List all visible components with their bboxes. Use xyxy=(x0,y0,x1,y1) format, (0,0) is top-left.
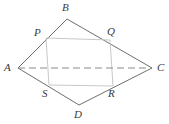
vertex-label-Q: Q xyxy=(107,26,115,37)
vertex-label-P: P xyxy=(34,27,41,38)
vertex-label-R: R xyxy=(108,88,115,99)
vertex-label-D: D xyxy=(74,109,82,120)
vertex-label-B: B xyxy=(62,2,69,13)
figure-canvas xyxy=(0,0,169,124)
geometry-figure: A B C D P Q R S xyxy=(0,0,169,124)
vertex-label-A: A xyxy=(4,62,11,73)
inner-quadrilateral-pqrs xyxy=(46,38,113,86)
vertex-label-S: S xyxy=(42,88,48,99)
vertex-label-C: C xyxy=(157,62,164,73)
